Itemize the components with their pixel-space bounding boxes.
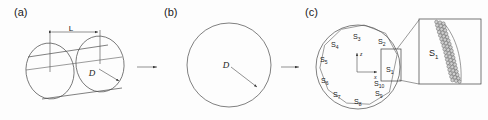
panel-a: (a) L D bbox=[14, 6, 128, 102]
dim-label-length: L bbox=[69, 24, 74, 33]
segment-label-S9: S9 bbox=[375, 89, 383, 99]
panel-b: (b) D bbox=[164, 6, 271, 107]
figure-canvas: (a) L D (b) bbox=[0, 0, 488, 120]
dim-label-diameter-a: D bbox=[88, 68, 96, 78]
segment-label-S8: S8 bbox=[354, 97, 362, 107]
inset-particle-band bbox=[435, 20, 462, 83]
dim-line-diameter-b bbox=[231, 67, 257, 87]
segment-label-S2: S2 bbox=[378, 37, 386, 47]
segment-label-S5: S5 bbox=[320, 55, 328, 65]
segment-label-S1: S1 bbox=[386, 65, 394, 75]
segment-label-S7: S7 bbox=[333, 90, 341, 100]
segment-label-S4: S4 bbox=[331, 40, 339, 50]
axis-label-z: z bbox=[359, 51, 363, 57]
segment-label-S3: S3 bbox=[353, 32, 361, 42]
dim-line-diameter-a bbox=[99, 69, 119, 81]
cylinder-top-line bbox=[28, 45, 108, 57]
inset-label-S1: S1 bbox=[429, 48, 439, 60]
panel-b-label: (b) bbox=[164, 6, 177, 18]
segment-label-S10: S10 bbox=[374, 79, 385, 89]
panel-c-label: (c) bbox=[305, 6, 318, 18]
inset-magnification: S1 bbox=[419, 19, 481, 84]
coordinate-axes: z x bbox=[357, 51, 377, 80]
panel-a-label: (a) bbox=[14, 6, 27, 18]
panel-c: (c) S1 S2 S3 S4 S5 S6 S7 S8 S9 S10 z x bbox=[305, 6, 419, 109]
segment-label-S6: S6 bbox=[321, 76, 329, 86]
axis-label-x: x bbox=[373, 74, 377, 80]
dim-label-diameter-b: D bbox=[222, 60, 230, 70]
callout-line-bottom bbox=[399, 80, 419, 84]
callout-line-top bbox=[397, 20, 419, 49]
